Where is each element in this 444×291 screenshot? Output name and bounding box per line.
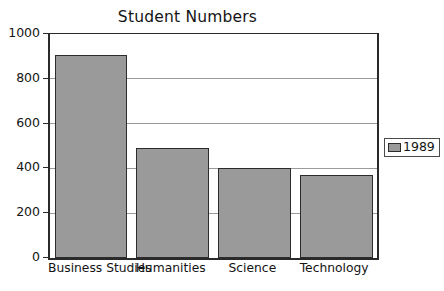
bar-humanities xyxy=(136,148,209,258)
y-tick-label-1000: 1000 xyxy=(0,25,40,40)
bar-chart: Student Numbers 1989 02004006008001000Bu… xyxy=(0,0,444,291)
y-tick-label-800: 800 xyxy=(0,70,40,85)
y-tick-mark-1000 xyxy=(43,33,48,34)
bar-technology xyxy=(300,175,373,258)
y-tick-mark-800 xyxy=(43,78,48,79)
y-tick-mark-400 xyxy=(43,167,48,168)
y-tick-label-0: 0 xyxy=(0,249,40,264)
legend-swatch-1989 xyxy=(388,143,401,152)
bar-business-studies xyxy=(55,55,128,258)
x-tick-label-business-studies: Business Studies xyxy=(48,261,130,275)
chart-legend: 1989 xyxy=(384,138,440,157)
x-tick-label-technology: Technology xyxy=(293,261,375,275)
y-tick-mark-0 xyxy=(43,257,48,258)
y-tick-label-200: 200 xyxy=(0,204,40,219)
y-tick-mark-200 xyxy=(43,212,48,213)
legend-label-1989: 1989 xyxy=(403,141,435,154)
y-tick-label-600: 600 xyxy=(0,115,40,130)
bar-science xyxy=(218,168,291,258)
plot-area xyxy=(48,33,379,260)
chart-title: Student Numbers xyxy=(0,8,375,26)
bars-layer xyxy=(50,34,377,258)
x-tick-label-science: Science xyxy=(212,261,294,275)
x-tick-label-humanities: Humanities xyxy=(130,261,212,275)
y-tick-mark-600 xyxy=(43,123,48,124)
y-tick-label-400: 400 xyxy=(0,159,40,174)
